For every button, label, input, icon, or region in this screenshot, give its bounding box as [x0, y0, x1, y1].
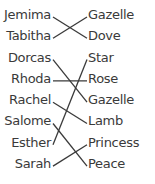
right-item-peace: Peace: [88, 156, 125, 172]
left-item-jemima: Jemima: [4, 7, 51, 23]
left-item-rhoda: Rhoda: [11, 71, 51, 87]
left-item-tabitha: Tabitha: [6, 28, 51, 44]
left-item-salome: Salome: [4, 113, 51, 129]
connector-line-esther-to-star: [53, 60, 87, 145]
right-item-princess: Princess: [88, 135, 139, 151]
connector-line-sarah-to-princess: [53, 145, 87, 166]
right-item-lamb: Lamb: [88, 113, 123, 129]
right-item-gazelle-1: Gazelle: [88, 7, 134, 23]
right-item-gazelle-2: Gazelle: [88, 92, 134, 108]
left-item-sarah: Sarah: [15, 156, 51, 172]
left-item-esther: Esther: [11, 135, 51, 151]
left-item-dorcas: Dorcas: [8, 50, 51, 66]
connector-line-salome-to-peace: [53, 124, 87, 167]
right-item-rose: Rose: [88, 71, 118, 87]
right-item-dove: Dove: [88, 28, 120, 44]
connector-line-rachel-to-lamb: [53, 102, 87, 123]
left-item-rachel: Rachel: [9, 92, 51, 108]
right-item-star: Star: [88, 50, 113, 66]
